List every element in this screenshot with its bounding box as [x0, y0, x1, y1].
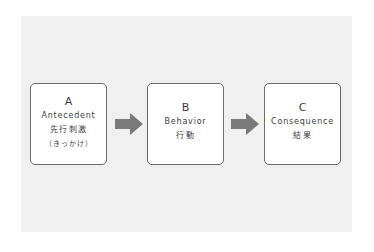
- behavior-box: B Behavior 行動: [147, 83, 224, 165]
- box-english-label: Consequence: [265, 116, 340, 128]
- right-arrow-icon: [115, 113, 143, 135]
- box-letter: B: [148, 101, 223, 114]
- consequence-box: C Consequence 結果: [264, 83, 341, 165]
- box-english-label: Behavior: [148, 116, 223, 128]
- box-letter: C: [265, 101, 340, 114]
- box-japanese-label: 先行刺激: [31, 124, 106, 136]
- box-english-label: Antecedent: [31, 110, 106, 122]
- right-arrow-icon: [231, 113, 259, 135]
- box-japanese-label: 行動: [148, 130, 223, 142]
- antecedent-box: A Antecedent 先行刺激 （きっかけ）: [30, 83, 107, 165]
- box-japanese-label: 結果: [265, 130, 340, 142]
- box-japanese-note: （きっかけ）: [31, 138, 106, 150]
- box-letter: A: [31, 95, 106, 108]
